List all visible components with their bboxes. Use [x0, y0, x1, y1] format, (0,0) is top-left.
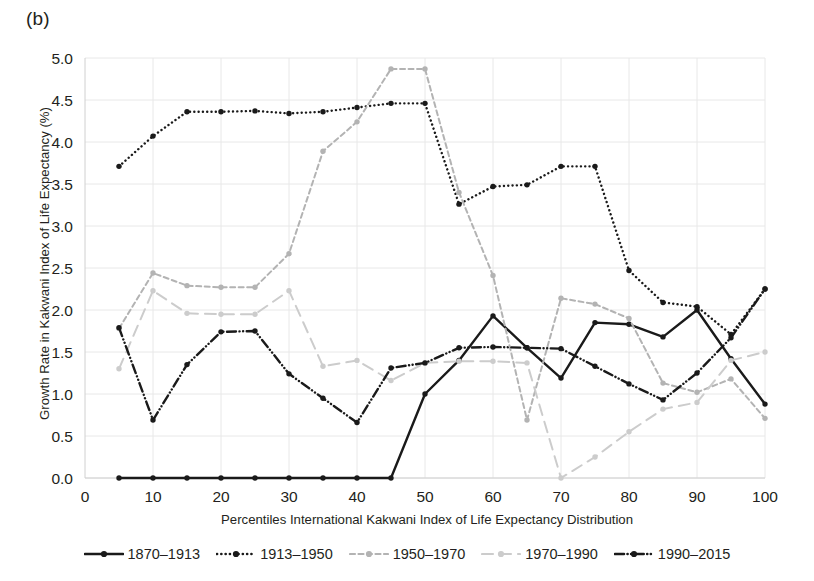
svg-text:4.0: 4.0 — [51, 134, 73, 151]
svg-text:0.0: 0.0 — [51, 470, 73, 487]
data-series-layer — [116, 66, 767, 480]
legend-item-3[interactable]: 1950–1970 — [349, 546, 466, 562]
svg-text:100: 100 — [752, 488, 778, 505]
svg-text:10: 10 — [144, 488, 162, 505]
svg-text:40: 40 — [348, 488, 366, 505]
legend-line-marker-icon — [349, 547, 389, 561]
svg-text:1.5: 1.5 — [51, 344, 73, 361]
legend-item-1[interactable]: 1870–1913 — [84, 546, 201, 562]
legend-label: 1970–1990 — [525, 546, 598, 562]
legend-line-marker-icon — [216, 547, 256, 561]
svg-text:1.0: 1.0 — [51, 386, 73, 403]
legend-label: 1990–2015 — [658, 546, 731, 562]
svg-text:90: 90 — [688, 488, 706, 505]
svg-text:3.0: 3.0 — [51, 218, 73, 235]
legend-line-marker-icon — [84, 547, 124, 561]
chart-plot: 0.00.51.01.52.02.53.03.54.04.55.0 010203… — [0, 0, 814, 581]
svg-text:2.5: 2.5 — [51, 260, 73, 277]
svg-text:20: 20 — [212, 488, 230, 505]
svg-text:3.5: 3.5 — [51, 176, 73, 193]
legend-label: 1950–1970 — [393, 546, 466, 562]
x-axis-ticks: 0102030405060708090100 — [81, 488, 779, 505]
svg-text:60: 60 — [484, 488, 502, 505]
svg-text:70: 70 — [552, 488, 570, 505]
legend-item-4[interactable]: 1970–1990 — [481, 546, 598, 562]
svg-text:4.5: 4.5 — [51, 92, 73, 109]
svg-text:0: 0 — [81, 488, 90, 505]
legend-label: 1913–1950 — [260, 546, 333, 562]
svg-text:5.0: 5.0 — [51, 50, 73, 67]
figure-container: (b) Growth Rate in Kakwani Index of Life… — [0, 0, 814, 581]
legend-line-marker-icon — [481, 547, 521, 561]
svg-text:80: 80 — [620, 488, 638, 505]
grid-lines — [85, 58, 765, 478]
legend-label: 1870–1913 — [128, 546, 201, 562]
legend-line-marker-icon — [614, 547, 654, 561]
series-4 — [116, 288, 767, 481]
svg-text:50: 50 — [416, 488, 434, 505]
series-5 — [116, 286, 767, 425]
y-axis-ticks: 0.00.51.01.52.02.53.03.54.04.55.0 — [51, 50, 73, 487]
svg-text:30: 30 — [280, 488, 298, 505]
series-3 — [116, 66, 767, 423]
svg-text:0.5: 0.5 — [51, 428, 73, 445]
legend-item-2[interactable]: 1913–1950 — [216, 546, 333, 562]
chart-legend: 1870–19131913–19501950–19701970–19901990… — [0, 546, 814, 562]
svg-text:2.0: 2.0 — [51, 302, 73, 319]
x-axis-label: Percentiles International Kakwani Index … — [85, 512, 769, 527]
series-2 — [116, 101, 767, 337]
legend-item-5[interactable]: 1990–2015 — [614, 546, 731, 562]
